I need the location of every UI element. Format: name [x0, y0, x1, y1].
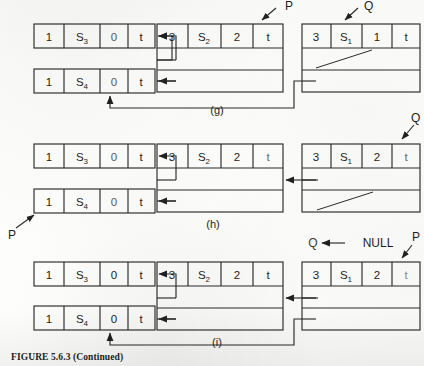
panel-g-right-symbol: S1: [340, 31, 353, 46]
panel-g-null-slash: [316, 50, 372, 68]
panel-i-right-flag: t: [404, 269, 408, 281]
panel-i-q-label: Q: [308, 236, 317, 250]
panel-g-s3-symbol: S3: [76, 31, 89, 46]
panel-g-s3-flag: t: [139, 31, 143, 43]
panel-i-middle-flag: t: [266, 269, 270, 281]
panel-h-pointer-q-label: Q: [411, 111, 420, 125]
panel-i-label: (i): [212, 336, 222, 348]
panel-i-right-count: 3: [313, 269, 319, 281]
panel-i-pointer-p-label: P: [412, 230, 420, 244]
panel-h-pointer-p-label: P: [8, 228, 16, 242]
panel-h-s4-flag: t: [139, 196, 143, 208]
panel-h-pointer-q-arrow: [402, 125, 414, 139]
panel-g-s4-count: 1: [46, 76, 52, 88]
panel-h-s4-symbol: S4: [76, 196, 89, 211]
panel-g-pointer-q-arrow: [345, 8, 358, 20]
panel-g-right-value: 1: [374, 31, 380, 43]
panel-h-s3-symbol: S3: [76, 151, 89, 166]
panel-h-label: (h): [206, 218, 219, 230]
panel-h-pointer-p-arrow: [16, 215, 34, 228]
panel-i-middle-symbol: S2: [198, 269, 211, 284]
panel-g-right-node: [302, 24, 420, 92]
panel-g-middle-count: 3: [169, 31, 175, 43]
panel-g-s3-value: 0: [111, 31, 117, 43]
panel-i-s4-flag: t: [139, 313, 143, 325]
panel-g-s4-flag: t: [139, 76, 143, 88]
panel-h-middle-value: 2: [234, 151, 240, 163]
figure-5-6-3-continued: 1 S3 0 t 1 S4 0 t 3 S2 2 t 3 S1 1 t P Q …: [0, 0, 424, 366]
panel-i-s3-count: 1: [46, 269, 52, 281]
panel-i-s3-symbol: S3: [76, 269, 89, 284]
panel-g-right-flag: t: [404, 31, 408, 43]
panel-h-s3-count: 1: [46, 151, 52, 163]
panel-i-right-node: [302, 262, 420, 330]
panel-i-s3-value: 0: [111, 269, 117, 281]
panel-i-null-label: NULL: [363, 236, 394, 250]
panel-i-middle-count: 3: [169, 269, 175, 281]
panel-h-middle-symbol: S2: [198, 151, 211, 166]
panel-g-right-count: 3: [313, 31, 319, 43]
panel-h-middle-count: 3: [169, 151, 175, 163]
figure-caption-region: FIGURE 5.6.3 (Continued): [0, 352, 424, 366]
panel-g-middle-symbol: S2: [198, 31, 211, 46]
panel-i-s4-count: 1: [46, 313, 52, 325]
panel-g-pointer-p-label: P: [285, 0, 293, 13]
panel-g-s4-symbol: S4: [76, 76, 89, 91]
panel-g-s3-count: 1: [46, 31, 52, 43]
panel-h-s4-value: 0: [111, 196, 117, 208]
panel-i-right-symbol: S1: [340, 269, 353, 284]
panel-h-s3-flag: t: [139, 151, 143, 163]
panel-i-s3-flag: t: [139, 269, 143, 281]
panel-g-middle-flag: t: [266, 31, 270, 43]
panel-g-label: (g): [210, 104, 223, 116]
panel-i-s4-symbol: S4: [76, 313, 89, 328]
panel-h-right-symbol: S1: [340, 151, 353, 166]
panel-h-middle-flag: t: [266, 151, 270, 163]
panel-h-null-slash: [317, 192, 373, 210]
panel-h-s4-count: 1: [46, 196, 52, 208]
panel-i-s4-value: 0: [111, 313, 117, 325]
panel-h-right-node: [302, 144, 420, 212]
panel-g-middle-value: 2: [234, 31, 240, 43]
panel-h-s3-value: 0: [111, 151, 117, 163]
panel-g-s4-value: 0: [111, 76, 117, 88]
panel-h-right-value: 2: [374, 151, 380, 163]
panel-h-right-flag: t: [404, 151, 408, 163]
panel-g-pointer-p-arrow: [262, 8, 276, 20]
panel-i-pointer-p-arrow: [402, 245, 412, 258]
figure-caption: FIGURE 5.6.3 (Continued): [11, 352, 424, 362]
panel-i-middle-value: 2: [234, 269, 240, 281]
panel-i-right-value: 2: [374, 269, 380, 281]
panel-h-right-count: 3: [313, 151, 319, 163]
panel-g-pointer-q-label: Q: [364, 0, 373, 13]
